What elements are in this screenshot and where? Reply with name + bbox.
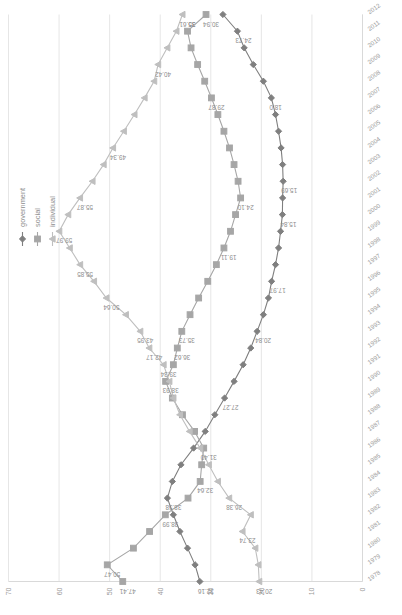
x-axis-tick-label: 1987 [366,418,382,432]
x-axis-tick-label: 1991 [366,351,382,365]
data-point-social [178,328,184,334]
data-point-social [170,361,176,367]
data-label: 24.10 [237,203,253,210]
x-axis-tick-label: 2004 [366,134,382,148]
data-point-government [279,211,285,217]
data-point-social [231,161,237,167]
y-axis-tick-label: 40 [156,587,163,595]
x-axis-tick-label: 1981 [366,518,382,532]
chart-plot-area: 7060504030201001978197919801981198219831… [0,0,402,615]
data-point-government [275,128,281,134]
data-point-social [104,561,110,567]
data-point-social [119,578,125,584]
data-point-individual [76,261,82,267]
x-axis-tick-label: 1998 [366,234,382,248]
data-point-social [187,311,193,317]
data-point-government [241,44,247,50]
data-point-social [232,211,238,217]
data-point-individual [76,194,82,200]
legend-label-social[interactable]: social [33,207,42,226]
x-axis-tick-label: 1999 [366,218,382,232]
data-label: 38.58 [164,504,180,511]
data-point-social [226,145,232,151]
legend-marker-individual [49,235,55,241]
data-point-individual [179,11,185,17]
data-point-individual [89,178,95,184]
chart-rotated-container: 7060504030201001978197919801981198219831… [0,0,402,615]
data-label: 40.42 [154,70,170,77]
data-point-social [188,44,194,50]
data-point-individual [131,111,137,117]
data-label: 38.99 [161,520,177,527]
x-axis-tick-label: 1978 [366,568,382,582]
series-social [104,11,243,584]
legend-label-government[interactable]: government [18,187,27,226]
x-axis-tick-label: 2008 [366,68,382,82]
y-axis-tick-label: 50 [106,587,113,595]
x-axis-tick-label: 2005 [366,118,382,132]
data-point-government [279,161,285,167]
data-label: 18.0 [268,103,281,110]
data-label: 32.16 [197,587,213,594]
data-point-government [265,294,271,300]
data-point-government [196,578,202,584]
x-axis-tick-label: 1995 [366,284,382,298]
data-point-government [170,511,176,517]
data-label: 42.17 [145,354,161,361]
data-point-government [184,545,190,551]
legend-marker-government [19,235,25,241]
x-axis-tick-label: 2009 [366,51,382,65]
legend-label-individual[interactable]: individual [48,195,57,226]
data-label: 55.87 [76,203,92,210]
data-label: 39.34 [160,370,176,377]
data-point-individual [239,528,245,534]
x-axis-tick-label: 1994 [366,301,382,315]
x-axis-tick-label: 1993 [366,318,382,332]
data-point-social [185,495,191,501]
data-point-government [247,344,253,350]
data-label: 35 [187,20,195,27]
chart-svg: 7060504030201001978197919801981198219831… [0,0,402,615]
data-point-government [219,11,225,17]
y-axis-tick-label: 70 [5,587,12,595]
data-label: 26.38 [225,504,241,511]
data-point-social [162,511,168,517]
x-axis-tick-label: 2011 [366,18,381,32]
data-point-social [194,61,200,67]
x-axis-tick-label: 1979 [366,551,382,565]
data-point-individual [214,478,220,484]
series-individual [55,11,261,584]
data-label: 23.74 [239,537,255,544]
data-point-government [164,495,170,501]
data-point-individual [255,578,261,584]
data-point-government [192,561,198,567]
data-point-social [201,78,207,84]
x-axis-tick-label: 2007 [366,84,382,98]
data-label: 50.64 [102,304,118,311]
x-axis-tick-label: 2002 [366,168,382,182]
data-point-government [277,144,283,150]
x-axis-tick-label: 2012 [366,1,382,15]
x-axis-tick-label: 2000 [366,201,382,215]
data-point-individual [163,44,169,50]
data-point-individual [173,27,179,33]
data-point-social [237,195,243,201]
data-point-social [214,111,220,117]
data-point-government [254,328,260,334]
x-axis-tick-label: 2006 [366,101,382,115]
data-point-individual [141,94,147,100]
data-point-government [176,528,182,534]
data-point-social [235,178,241,184]
data-point-government [272,261,278,267]
data-point-individual [55,228,61,234]
data-point-social [184,28,190,34]
data-label: 15.84 [279,220,295,227]
data-label: 47.41 [119,587,135,594]
data-point-government [280,178,286,184]
data-point-social [146,528,152,534]
data-point-social [208,94,214,100]
data-point-social [221,128,227,134]
data-label: 43.95 [136,337,152,344]
x-axis-tick-label: 1980 [366,535,382,549]
data-point-government [279,194,285,200]
